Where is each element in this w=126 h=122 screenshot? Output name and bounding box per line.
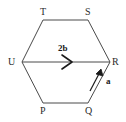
hexagon-vector-diagram: T S R Q P U 2b a [0, 0, 126, 122]
vector-label-2b: 2b [58, 44, 68, 53]
diagram-canvas [0, 0, 126, 122]
vertex-label-s: S [85, 7, 91, 17]
vector-label-a: a [106, 77, 111, 86]
vertex-label-r: R [112, 57, 119, 67]
vertex-label-p: P [40, 106, 46, 116]
vertex-label-t: T [40, 7, 46, 17]
vertex-label-q: Q [85, 106, 92, 116]
vector-a-arrowhead-icon [96, 69, 103, 76]
vertex-label-u: U [8, 57, 15, 67]
